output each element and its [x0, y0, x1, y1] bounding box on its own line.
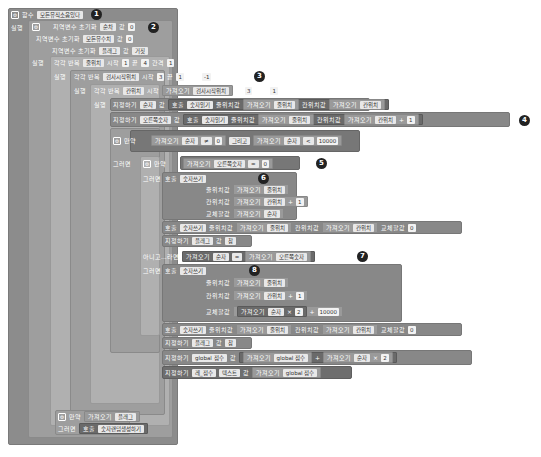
callout-4: 4: [519, 115, 530, 126]
callout-5: 5: [316, 158, 327, 169]
call3-header[interactable]: 호출숫자쓰기: [165, 265, 206, 276]
set-label-row[interactable]: 지정하기레_점수텍스트값 가져오기global 점수: [165, 367, 321, 378]
final-if-row[interactable]: ⚙ 만약 가져오기플래그: [58, 411, 140, 422]
gear-icon[interactable]: ⚙: [113, 137, 121, 145]
callout-6: 6: [258, 173, 269, 184]
gear-icon[interactable]: ⚙: [11, 11, 19, 19]
middle-loop-header[interactable]: 각각 반복 검사시작위치 시작 3 끝 1 간격 -1: [74, 71, 211, 82]
callout-1: 1: [91, 9, 102, 20]
callout-2: 2: [148, 22, 159, 33]
gear-icon[interactable]: ⚙: [32, 23, 40, 31]
final-then-row[interactable]: 그러면 호출숫자랜덤생성하기: [58, 423, 148, 434]
call1-header[interactable]: 호출숫자쓰기: [165, 173, 206, 184]
local-var-2[interactable]: 지역변수 초기화 모든뮤수치 값 0: [36, 33, 133, 44]
gear-icon[interactable]: ⚙: [143, 160, 151, 168]
set-score-row[interactable]: 지정하기global 점수값 가져오기global 점수+ 가져오기순자×2: [165, 352, 397, 363]
callout-7: 7: [357, 251, 368, 262]
call2-row[interactable]: 호출숫자쓰기 줄위치값가져오기줄위치 칸위치값가져오기칸위치 교체할값0: [165, 222, 416, 233]
local-var-1[interactable]: ⚙ 지역변수 초기화 순차 값 0: [32, 21, 135, 32]
set-flag-row-1[interactable]: 지정하기플래그값참: [165, 235, 236, 246]
inner-loop-header[interactable]: 각각 반복 칸위치 시작 가져오기검사시작위치 끝 3 간격 1: [94, 85, 278, 96]
outer-loop-header[interactable]: 각각 반복 줄위치 시작 1 끝 4 간격 1: [54, 57, 174, 68]
callout-8: 8: [249, 265, 260, 276]
set-flag-row-2[interactable]: 지정하기플래그값참: [165, 337, 236, 348]
if2-row[interactable]: ⚙ 만약 가져오기오른쪽숫자=0: [143, 158, 273, 169]
call4-row[interactable]: 호출숫자쓰기 줄위치값가져오기줄위치 칸위치값가져오기칸위치 교체할값0: [165, 324, 416, 335]
set-row-2[interactable]: 지정하기 오른쪽숫자 값 호출숫자읽기줄위치값 가져오기줄위치 칸위치값 가져오…: [113, 114, 423, 125]
set-row-1[interactable]: 지정하기 순자 값 호출숫자읽기줄위치값 가져오기줄위치 칸위치값 가져오기칸위…: [113, 99, 389, 110]
callout-3: 3: [254, 71, 265, 82]
procedure-do-label: 실행: [11, 22, 23, 33]
elseif-row[interactable]: 아니고...라면 가져오기순자= 가져오기오른쪽숫자: [143, 251, 315, 262]
procedure-header: ⚙ 함수 모든뮤직소음있다: [11, 9, 83, 20]
gear-icon[interactable]: ⚙: [58, 413, 66, 421]
procedure-name-field[interactable]: 모든뮤직소음있다: [37, 11, 83, 19]
local-var-3[interactable]: 지역변수 초기화 플래그 값 거짓: [52, 45, 148, 56]
if1-row[interactable]: ⚙ 만약 가져오기순자≠0 그리고 가져오기순자<10000: [113, 135, 342, 146]
